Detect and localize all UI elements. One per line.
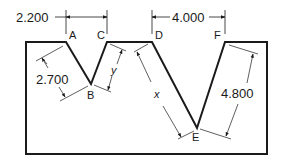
ext-line-ef-bottom <box>200 129 231 139</box>
dim-line-bc-upper <box>117 50 122 64</box>
ext-line-ab-top <box>36 46 63 61</box>
ext-line-ab-bottom <box>60 86 88 101</box>
dim-line-ab-lower-arrow <box>59 87 65 97</box>
dim-line-ab-upper-arrow <box>42 58 48 68</box>
dim-line-de-upper <box>137 52 151 82</box>
point-label-e: E <box>192 131 199 143</box>
point-label-d: D <box>155 29 163 41</box>
point-label-b: B <box>87 89 94 101</box>
dim-line-ef-lower <box>226 104 238 136</box>
dim-line-ef-upper <box>247 54 253 83</box>
dim-line-de-lower <box>163 106 181 137</box>
ext-line-ef-top <box>229 45 258 54</box>
point-label-a: A <box>69 29 77 41</box>
dim-label-de: x <box>153 88 160 100</box>
dim-label-ef: 4.800 <box>221 86 254 101</box>
point-label-f: F <box>214 29 221 41</box>
dim-label-ab: 2.700 <box>36 72 69 87</box>
dim-label-bc: y <box>110 64 118 76</box>
dim-line-bc-lower <box>108 76 112 90</box>
ext-line-de-top <box>134 44 148 52</box>
ext-line-bc-top <box>110 44 126 51</box>
dim-label-ac: 2.200 <box>16 10 49 25</box>
point-label-c: C <box>97 29 105 41</box>
technical-drawing: 2.200 4.000 A B C D E F 2.700 y x 4.800 <box>0 0 281 165</box>
dim-label-df: 4.000 <box>172 10 205 25</box>
